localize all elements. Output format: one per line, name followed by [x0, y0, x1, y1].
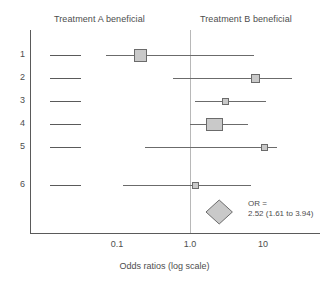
right-header-label: Treatment B beneficial: [200, 14, 292, 24]
left-header-label: Treatment A beneficial: [54, 14, 145, 24]
study-row-label-2: 2: [5, 72, 25, 82]
x-tick-label-10: 10: [243, 239, 283, 249]
confidence-interval-line: [106, 55, 254, 56]
confidence-interval-line: [145, 147, 277, 148]
confidence-interval-line: [173, 78, 292, 79]
study-row-label-3: 3: [5, 95, 25, 105]
study-identifier-dash: [50, 185, 81, 186]
summary-diamond: [205, 199, 233, 225]
x-axis-line: [30, 233, 320, 234]
x-tick-label-0.1: 0.1: [97, 239, 137, 249]
null-reference-line: [190, 30, 191, 233]
x-axis-title: Odds ratios (log scale): [0, 261, 329, 271]
study-row-label-5: 5: [5, 141, 25, 151]
effect-size-marker: [192, 182, 199, 189]
effect-size-marker: [206, 118, 223, 131]
study-row-label-4: 4: [5, 118, 25, 128]
effect-size-marker: [261, 144, 268, 151]
study-row-label-1: 1: [5, 49, 25, 59]
study-identifier-dash: [50, 147, 81, 148]
effect-size-marker: [134, 49, 147, 62]
effect-size-marker: [222, 98, 229, 105]
confidence-interval-line: [195, 101, 266, 102]
y-axis-line: [30, 30, 31, 234]
study-identifier-dash: [50, 78, 81, 79]
study-identifier-dash: [50, 101, 81, 102]
confidence-interval-line: [123, 185, 251, 186]
x-tick-label-1.0: 1.0: [170, 239, 210, 249]
summary-or-label-line1: OR =: [248, 199, 267, 209]
study-row-label-6: 6: [5, 179, 25, 189]
effect-size-marker: [251, 74, 260, 83]
study-identifier-dash: [50, 55, 81, 56]
forest-plot: Treatment A beneficial Treatment B benef…: [0, 0, 329, 283]
summary-or-label-line2: 2.52 (1.61 to 3.94): [248, 209, 313, 219]
study-identifier-dash: [50, 124, 81, 125]
